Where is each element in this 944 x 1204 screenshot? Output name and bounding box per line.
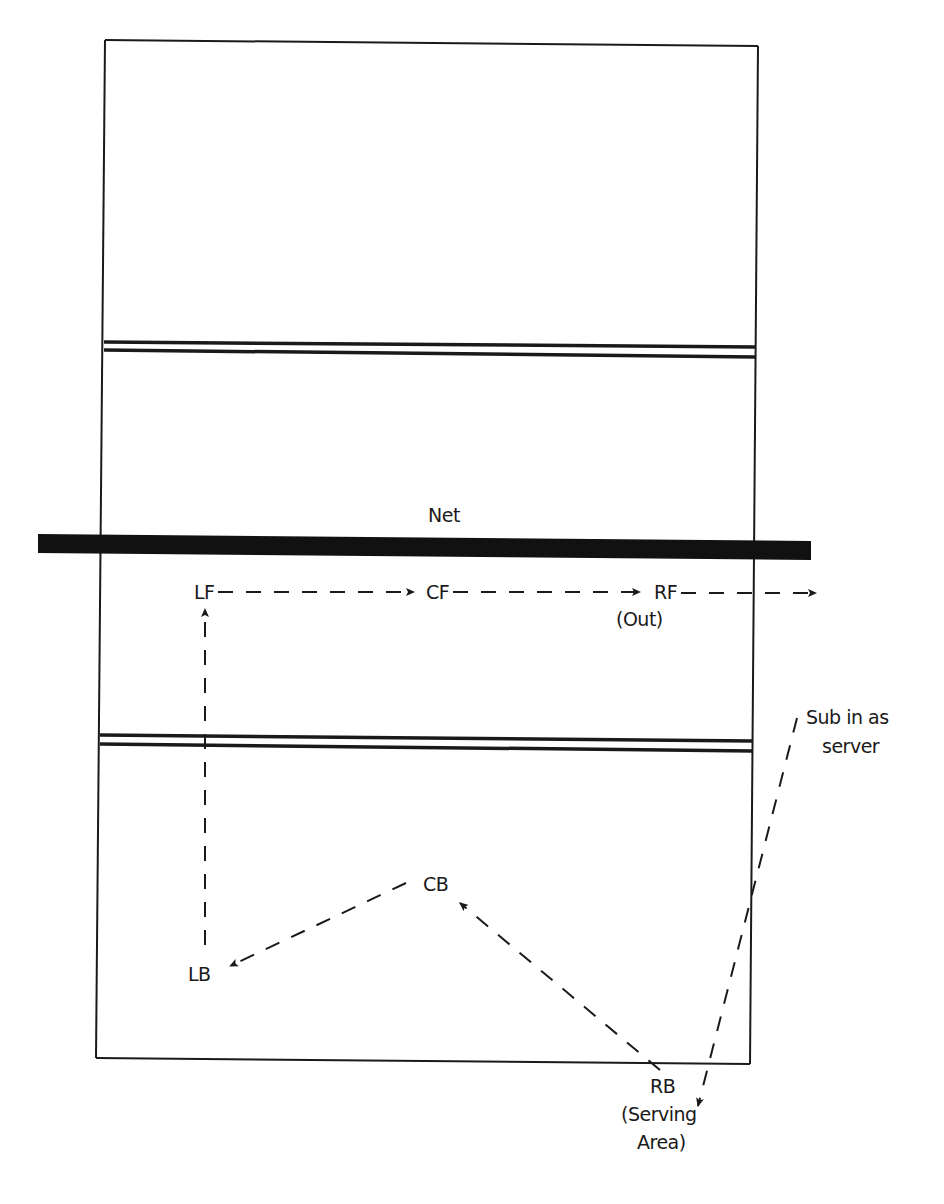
position-rb-note-line1: (Serving: [621, 1105, 697, 1124]
position-lb: LB: [188, 965, 211, 984]
arrow-sub-to-rb: [698, 718, 797, 1106]
arrow-rb-to-cb: [460, 903, 660, 1070]
sub-annotation-line1: Sub in as: [806, 708, 889, 727]
lower-attack-line: [100, 735, 753, 751]
position-cb: CB: [423, 875, 448, 894]
court-diagram: [0, 0, 944, 1204]
position-rf-note: (Out): [616, 610, 663, 629]
position-rb-note-line2: Area): [637, 1133, 686, 1152]
arrow-cb-to-lb: [230, 883, 406, 966]
position-rf: RF: [654, 583, 677, 602]
position-rb: RB: [650, 1077, 675, 1096]
sub-annotation-line2: server: [822, 737, 879, 756]
position-lf: LF: [194, 583, 215, 602]
net: [38, 534, 811, 560]
rotation-arrows: [205, 592, 816, 1106]
net-label: Net: [428, 506, 460, 525]
upper-attack-line: [104, 342, 756, 357]
position-cf: CF: [426, 583, 449, 602]
